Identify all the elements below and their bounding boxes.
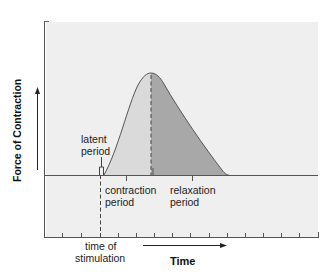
y-axis-label: Force of Contraction	[11, 79, 23, 182]
stimulation-label-line1: time of	[85, 240, 117, 252]
y-arrow-head-icon	[35, 87, 40, 94]
twitch-diagram: Force of Contraction Time latent period …	[0, 0, 332, 276]
relaxation-label-line2: period	[170, 196, 199, 208]
diagram-graphic	[0, 0, 332, 276]
relaxation-label-line1: relaxation	[170, 184, 216, 196]
x-arrow-head-icon	[220, 243, 227, 248]
latent-label-line1: latent	[81, 133, 107, 145]
latent-label-line2: period	[81, 145, 110, 157]
contraction-label-line1: contraction	[105, 184, 156, 196]
x-axis-label: Time	[170, 255, 195, 267]
contraction-label-line2: period	[105, 196, 134, 208]
stimulation-label-line2: stimulation	[75, 252, 125, 264]
